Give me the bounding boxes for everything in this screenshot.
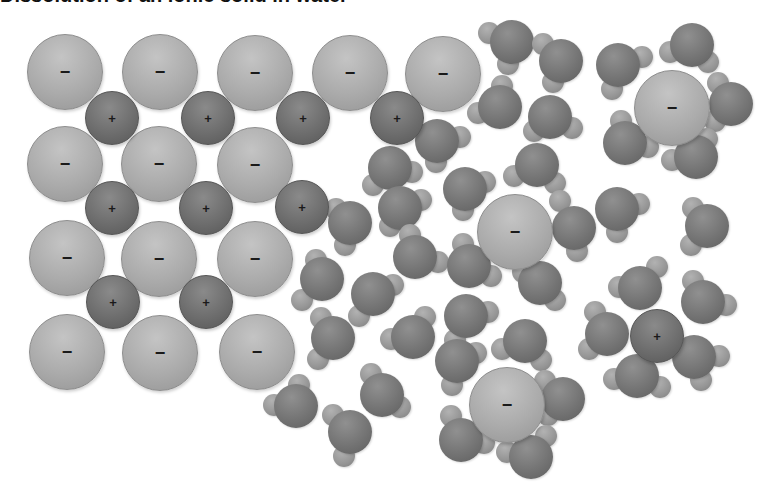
water-oxygen-atom [391,315,435,359]
water-oxygen-atom [539,39,583,83]
minus-sign-icon: − [62,249,73,267]
cation: + [275,180,329,234]
plus-sign-icon: + [299,112,307,125]
plus-sign-icon: + [108,112,116,125]
water-oxygen-atom [585,312,629,356]
water-oxygen-atom [328,201,372,245]
cation: + [85,181,139,235]
plus-sign-icon: + [202,296,210,309]
minus-sign-icon: − [250,250,261,268]
minus-sign-icon: − [250,156,261,174]
minus-sign-icon: − [60,63,71,81]
water-oxygen-atom [368,146,412,190]
water-oxygen-atom [490,20,534,64]
anion: − [477,194,553,270]
water-oxygen-atom [443,167,487,211]
minus-sign-icon: − [250,64,261,82]
water-oxygen-atom [478,85,522,129]
plus-sign-icon: + [393,112,401,125]
cation: + [85,91,139,145]
minus-sign-icon: − [155,63,166,81]
water-oxygen-atom [685,204,729,248]
cation: + [276,91,330,145]
water-oxygen-atom [528,95,572,139]
water-oxygen-atom [378,186,422,230]
water-oxygen-atom [328,410,372,454]
minus-sign-icon: − [438,65,449,83]
water-oxygen-atom [393,235,437,279]
cation: + [179,275,233,329]
plus-sign-icon: + [109,296,117,309]
plus-sign-icon: + [204,112,212,125]
minus-sign-icon: − [154,250,165,268]
minus-sign-icon: − [510,223,521,241]
anion: − [469,367,545,443]
water-oxygen-atom [670,23,714,67]
water-oxygen-atom [360,373,404,417]
water-oxygen-atom [595,187,639,231]
water-oxygen-atom [618,266,662,310]
cation: + [86,275,140,329]
minus-sign-icon: − [667,99,678,117]
minus-sign-icon: − [345,64,356,82]
water-oxygen-atom [503,319,547,363]
anion: − [634,70,710,146]
minus-sign-icon: − [155,344,166,362]
water-oxygen-atom [444,294,488,338]
water-oxygen-atom [515,143,559,187]
water-oxygen-atom [311,316,355,360]
anion: − [122,34,198,110]
cation: + [630,309,684,363]
plus-sign-icon: + [202,202,210,215]
anion: − [219,314,295,390]
anion: − [122,315,198,391]
water-oxygen-atom [435,339,479,383]
anion: − [29,314,105,390]
minus-sign-icon: − [60,155,71,173]
minus-sign-icon: − [62,343,73,361]
plus-sign-icon: + [653,330,661,343]
plus-sign-icon: + [298,201,306,214]
plus-sign-icon: + [108,202,116,215]
water-oxygen-atom [541,377,585,421]
water-oxygen-atom [709,82,753,126]
water-oxygen-atom [552,206,596,250]
water-oxygen-atom [681,280,725,324]
water-oxygen-atom [596,43,640,87]
water-oxygen-atom [300,257,344,301]
minus-sign-icon: − [154,155,165,173]
dissolution-diagram: −−−−−−−−−−−−−−−−−++++++++++ [0,0,769,498]
cation: + [179,181,233,235]
cation: + [370,91,424,145]
minus-sign-icon: − [502,396,513,414]
water-oxygen-atom [351,272,395,316]
anion: − [217,221,293,297]
cation: + [181,91,235,145]
minus-sign-icon: − [252,343,263,361]
water-oxygen-atom [274,384,318,428]
